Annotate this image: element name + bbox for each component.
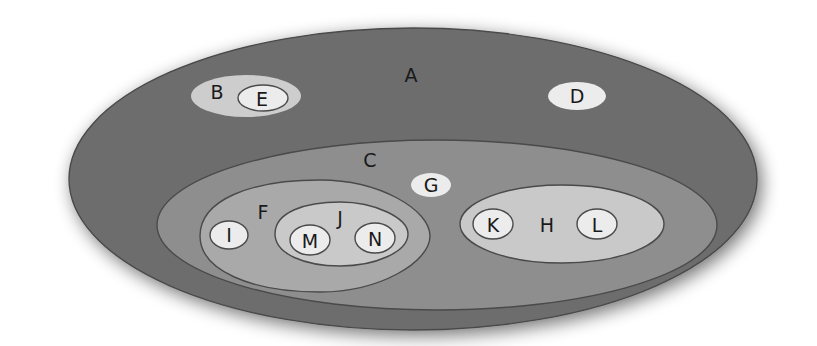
- set-n: N: [355, 223, 395, 253]
- set-h-label: H: [540, 214, 554, 236]
- set-m: M: [290, 225, 330, 255]
- set-k-label: K: [487, 214, 500, 236]
- set-g: G: [411, 173, 451, 197]
- set-f-label: F: [258, 201, 269, 223]
- set-d-label: D: [570, 85, 585, 107]
- set-i-label: I: [226, 224, 232, 246]
- set-e: E: [238, 85, 288, 111]
- set-n-label: N: [368, 228, 382, 250]
- set-l: L: [577, 209, 617, 239]
- set-m-label: M: [302, 230, 318, 252]
- set-c-label: C: [363, 149, 376, 171]
- nested-set-diagram: A B E D C G F I J M: [0, 0, 817, 346]
- set-i: I: [210, 221, 248, 249]
- set-k: K: [473, 209, 513, 239]
- set-l-label: L: [592, 214, 603, 236]
- set-h: H K L: [460, 185, 664, 263]
- set-b: B E: [191, 75, 301, 117]
- set-e-label: E: [256, 88, 268, 110]
- set-j-label: J: [336, 207, 343, 229]
- set-d: D: [548, 82, 606, 110]
- set-a-label: A: [405, 64, 418, 86]
- set-g-label: G: [424, 174, 439, 196]
- set-b-label: B: [210, 81, 223, 103]
